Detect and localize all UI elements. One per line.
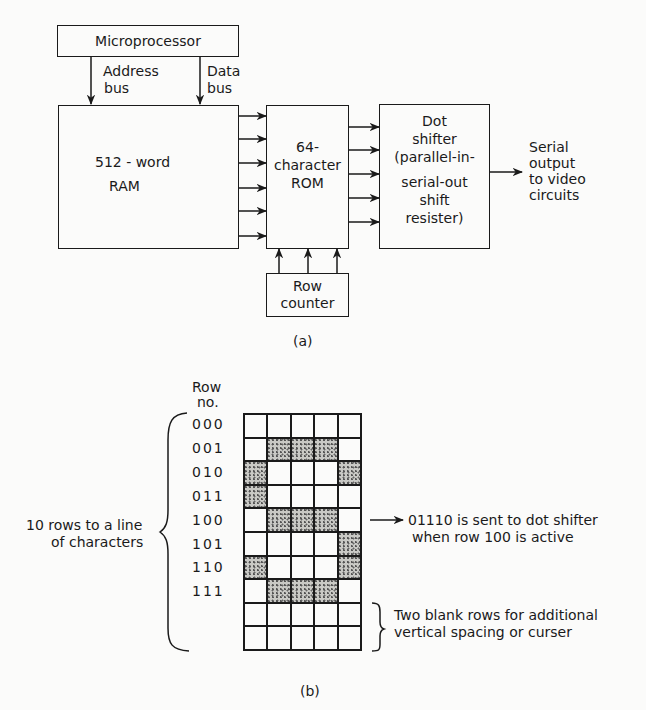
dot-cell-blank [291,461,314,485]
caption-a: (a) [293,333,313,349]
dot-cell-blank [267,626,290,650]
row-counter-label-1: Row [267,278,348,294]
dot-cell-blank [314,414,337,438]
dot-shifter-block: Dot shifter (parallel-in- serial-out shi… [379,104,490,249]
dot-cell-lit [314,508,337,532]
dot-cell-lit [244,485,267,509]
dot-cell-blank [338,626,361,650]
dot-cell-blank [244,414,267,438]
microprocessor-block: Microprocessor [57,25,239,57]
dot-cell-blank [267,485,290,509]
dot-cell-lit [267,438,290,462]
dot-cell-blank [291,532,314,556]
dot-cell-lit [338,556,361,580]
dot-cell-blank [338,438,361,462]
dot-cell-blank [338,508,361,532]
dot-cell-blank [314,603,337,627]
serial-output-label-2: output [529,155,575,171]
row-header-2: no. [197,394,219,410]
ram-label-2: RAM [109,178,140,194]
dot-cell-lit [244,556,267,580]
dot-cell-blank [244,532,267,556]
rom-label-2: character [267,157,348,173]
dot-cell-blank [244,438,267,462]
dot-cell-blank [244,579,267,603]
row-number: 011 [192,488,234,504]
dot-shifter-label-4: serial-out [380,174,489,190]
dot-cell-lit [267,508,290,532]
blank-rows-note-2: vertical spacing or curser [394,624,572,640]
dot-shifter-label-3: (parallel-in- [380,149,489,165]
row100-note-1: 01110 is sent to dot shifter [408,512,598,528]
row100-note-2: when row 100 is active [412,529,574,545]
rom-label-3: ROM [267,175,348,191]
dot-cell-blank [291,603,314,627]
rom-label-1: 64- [267,139,348,155]
address-bus-label-2: bus [104,80,129,96]
dot-cell-blank [291,414,314,438]
dot-cell-blank [267,603,290,627]
dot-cell-blank [244,626,267,650]
serial-output-label-1: Serial [529,139,569,155]
brace-label-1: 10 rows to a line [26,517,142,533]
row-number: 001 [192,440,234,456]
caption-b: (b) [300,683,320,699]
dot-cell-lit [291,438,314,462]
row-number: 010 [192,464,234,480]
dot-cell-lit [338,532,361,556]
dot-cell-blank [291,556,314,580]
dot-cell-lit [314,438,337,462]
dot-cell-lit [314,579,337,603]
serial-output-label-3: to video [529,171,586,187]
address-bus-label-1: Address [103,63,159,79]
dot-cell-blank [338,603,361,627]
dot-cell-blank [291,485,314,509]
dot-matrix-grid [243,413,362,651]
dot-cell-blank [314,626,337,650]
dot-shifter-label-5: shift [380,192,489,208]
dot-cell-blank [267,461,290,485]
dot-cell-blank [314,556,337,580]
blank-rows-note-1: Two blank rows for additional [394,607,598,623]
dot-cell-blank [338,579,361,603]
row-number: 101 [192,536,234,552]
dot-cell-lit [267,579,290,603]
dot-cell-blank [314,461,337,485]
dot-cell-blank [267,532,290,556]
dot-cell-lit [291,579,314,603]
brace-label-2: of characters [51,534,143,550]
row-counter-block: Row counter [266,273,349,317]
row-number: 110 [192,559,234,575]
row-number: 111 [192,583,234,599]
dot-shifter-label-1: Dot [380,113,489,129]
data-bus-label-2: bus [207,80,232,96]
dot-cell-lit [291,508,314,532]
data-bus-label-1: Data [207,63,240,79]
serial-output-label-4: circuits [529,187,579,203]
dot-cell-lit [338,461,361,485]
dot-shifter-label-6: resister) [380,210,489,226]
microprocessor-label: Microprocessor [58,33,238,49]
dot-cell-blank [267,556,290,580]
dot-cell-blank [267,414,290,438]
row-number: 000 [192,416,234,432]
rom-block: 64- character ROM [266,105,349,249]
dot-cell-blank [314,532,337,556]
dot-cell-lit [244,461,267,485]
row-number: 100 [192,512,234,528]
dot-shifter-label-2: shifter [380,131,489,147]
ram-label-1: 512 - word [95,154,170,170]
row-header-1: Row [192,379,221,395]
dot-cell-blank [291,626,314,650]
row-counter-label-2: counter [267,295,348,311]
dot-cell-blank [314,485,337,509]
dot-cell-blank [338,485,361,509]
dot-cell-blank [244,603,267,627]
dot-cell-blank [338,414,361,438]
ram-block: 512 - word RAM [58,105,239,249]
dot-cell-blank [244,508,267,532]
